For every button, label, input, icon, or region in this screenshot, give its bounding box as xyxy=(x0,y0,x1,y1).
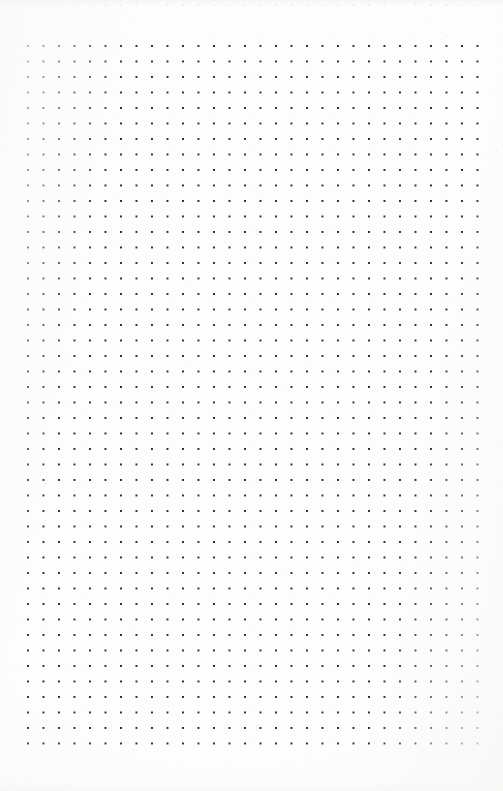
paper-sheet xyxy=(0,0,503,791)
dot-grid-paper-scan xyxy=(0,0,503,791)
